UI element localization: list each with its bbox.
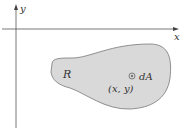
x-axis-label: x: [174, 31, 180, 42]
area-element-label: dA: [139, 71, 153, 82]
region-label: R: [62, 68, 71, 81]
double-integral-region-diagram: y x R dA (x, y): [0, 0, 193, 139]
diagram-canvas: y x R dA (x, y): [0, 0, 193, 139]
y-axis-arrow-icon: [14, 4, 18, 10]
point-label: (x, y): [108, 83, 134, 94]
area-element-dot-icon: [131, 75, 133, 77]
y-axis-label: y: [19, 3, 26, 14]
